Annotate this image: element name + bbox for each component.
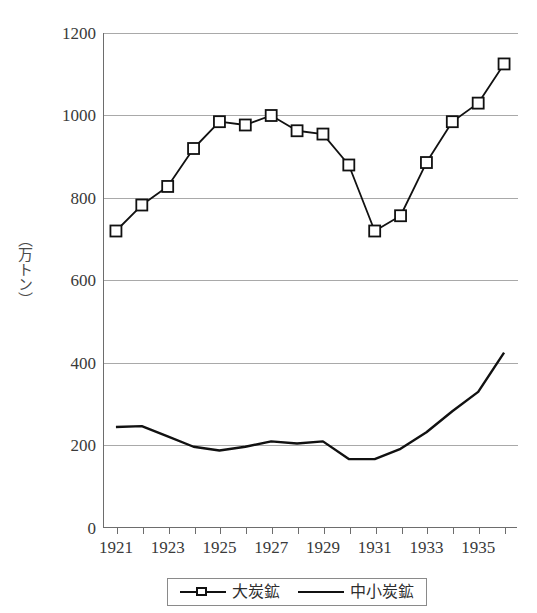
data-point-marker bbox=[395, 210, 406, 221]
data-point-marker bbox=[240, 119, 251, 130]
legend-entry-small-mines: 中小炭鉱 bbox=[298, 583, 414, 601]
series-small-mines bbox=[116, 353, 504, 459]
data-point-marker bbox=[188, 143, 199, 154]
line-marker-icon bbox=[298, 585, 344, 599]
data-point-marker bbox=[110, 226, 121, 237]
y-axis-tick-labels: 1200 1000 800 600 400 200 0 bbox=[34, 0, 96, 613]
data-point-marker bbox=[136, 200, 147, 211]
x-axis-tick-labels: 19211923192519271929193119331935 bbox=[0, 538, 537, 562]
legend-label: 大炭鉱 bbox=[232, 583, 280, 601]
x-tick bbox=[169, 528, 170, 534]
y-tick-label: 400 bbox=[34, 355, 96, 372]
x-tick bbox=[272, 528, 273, 534]
legend-label: 中小炭鉱 bbox=[350, 583, 414, 601]
data-point-marker bbox=[369, 226, 380, 237]
x-tick bbox=[117, 528, 118, 534]
x-tick-label: 1929 bbox=[306, 538, 340, 558]
x-tick bbox=[376, 528, 377, 534]
x-tick bbox=[195, 528, 196, 534]
x-tick-label: 1923 bbox=[151, 538, 185, 558]
square-marker-icon bbox=[180, 585, 226, 599]
line-chart: （万トン） 1200 1000 800 600 400 200 0 192119… bbox=[0, 0, 537, 613]
x-tick bbox=[505, 528, 506, 534]
x-tick-label: 1921 bbox=[99, 538, 133, 558]
x-tick bbox=[143, 528, 144, 534]
x-tick bbox=[220, 528, 221, 534]
y-tick-label: 1200 bbox=[34, 25, 96, 42]
data-point-marker bbox=[421, 157, 432, 168]
data-point-marker bbox=[343, 160, 354, 171]
data-point-marker bbox=[473, 98, 484, 109]
series-plot bbox=[103, 33, 517, 528]
x-tick-label: 1925 bbox=[202, 538, 236, 558]
x-tick bbox=[324, 528, 325, 534]
data-point-marker bbox=[447, 116, 458, 127]
x-tick bbox=[427, 528, 428, 534]
x-tick bbox=[479, 528, 480, 534]
data-point-marker bbox=[162, 181, 173, 192]
x-tick-label: 1927 bbox=[254, 538, 288, 558]
data-point-marker bbox=[499, 58, 510, 69]
x-tick bbox=[298, 528, 299, 534]
chart-legend: 大炭鉱 中小炭鉱 bbox=[167, 578, 427, 606]
x-tick-label: 1935 bbox=[461, 538, 495, 558]
x-tick bbox=[246, 528, 247, 534]
y-tick-label: 0 bbox=[34, 520, 96, 537]
data-point-marker bbox=[266, 110, 277, 121]
series-large-mines bbox=[110, 58, 509, 236]
y-tick-label: 800 bbox=[34, 190, 96, 207]
y-tick-label: 200 bbox=[34, 437, 96, 454]
legend-entry-large-mines: 大炭鉱 bbox=[180, 583, 280, 601]
x-tick-label: 1931 bbox=[358, 538, 392, 558]
y-tick-label: 1000 bbox=[34, 107, 96, 124]
y-axis-title: （万トン） bbox=[6, 232, 32, 307]
x-tick-label: 1933 bbox=[409, 538, 443, 558]
x-tick bbox=[350, 528, 351, 534]
data-point-marker bbox=[214, 116, 225, 127]
x-tick bbox=[453, 528, 454, 534]
series-line bbox=[116, 64, 504, 231]
data-point-marker bbox=[292, 125, 303, 136]
y-tick-label: 600 bbox=[34, 272, 96, 289]
x-tick bbox=[402, 528, 403, 534]
data-point-marker bbox=[317, 129, 328, 140]
series-line bbox=[116, 353, 504, 459]
